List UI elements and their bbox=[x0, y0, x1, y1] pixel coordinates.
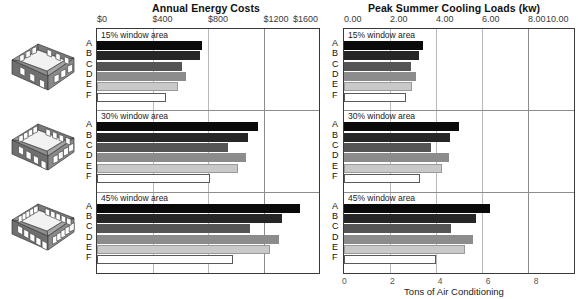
bar-row bbox=[97, 143, 319, 152]
bar-group: 45% window area bbox=[97, 192, 319, 273]
bar-B bbox=[344, 51, 419, 60]
bar-row bbox=[344, 72, 574, 81]
bar-D bbox=[97, 153, 246, 162]
building-30-percent-windows-icon bbox=[4, 110, 82, 184]
bar-row bbox=[97, 174, 319, 183]
group-label: 15% window area bbox=[101, 30, 168, 40]
bar-row bbox=[344, 62, 574, 71]
x-tick-label-bottom: 6 bbox=[486, 276, 491, 286]
bar-row bbox=[344, 235, 574, 244]
bar-C bbox=[344, 224, 451, 233]
left-chart-title: Annual Energy Costs bbox=[84, 2, 328, 14]
group-separator bbox=[97, 192, 319, 193]
group-label: 45% window area bbox=[101, 193, 168, 203]
bar-row bbox=[344, 133, 574, 142]
building-thumbnails-column bbox=[0, 0, 84, 299]
x-tick-label: 2.00 bbox=[390, 14, 408, 24]
bar-C bbox=[97, 224, 250, 233]
bar-C bbox=[344, 62, 411, 71]
x-tick-label: 8.00 bbox=[528, 14, 546, 24]
right-chart-plot-area: 15% window area30% window area45% window… bbox=[343, 28, 575, 274]
bar-E bbox=[97, 82, 178, 91]
bar-row bbox=[344, 153, 574, 162]
bar-D bbox=[97, 235, 279, 244]
bar-D bbox=[344, 235, 473, 244]
bar-group: 45% window area bbox=[344, 192, 574, 273]
x-tick-label: $1200 bbox=[264, 14, 289, 24]
building-45-percent-windows-icon bbox=[4, 190, 82, 264]
bar-row bbox=[344, 82, 574, 91]
bar-F bbox=[344, 174, 420, 183]
bar-row bbox=[344, 174, 574, 183]
bar-row bbox=[97, 122, 319, 131]
bar-B bbox=[97, 214, 282, 223]
bar-B bbox=[97, 51, 200, 60]
bar-B bbox=[344, 133, 450, 142]
bar-E bbox=[97, 245, 270, 254]
bar-row bbox=[344, 51, 574, 60]
bar-row bbox=[97, 93, 319, 102]
bar-C bbox=[97, 143, 228, 152]
bar-A bbox=[97, 204, 300, 213]
bar-row bbox=[344, 255, 574, 264]
x-tick-label-bottom: 2 bbox=[390, 276, 395, 286]
bar-row bbox=[97, 82, 319, 91]
group-label: 30% window area bbox=[348, 111, 415, 121]
right-chart-x-axis-top: 0.002.004.006.008.0010.00 bbox=[330, 14, 578, 26]
bar-row bbox=[97, 214, 319, 223]
bar-E bbox=[344, 164, 442, 173]
x-tick-label: 0.00 bbox=[344, 14, 362, 24]
bar-row bbox=[344, 164, 574, 173]
group-label: 15% window area bbox=[348, 30, 415, 40]
x-tick-label: $1600 bbox=[293, 14, 318, 24]
x-tick-label-bottom: 8 bbox=[534, 276, 539, 286]
figure-root: Annual Energy Costs $0$400$800$1200$1600… bbox=[0, 0, 578, 299]
bar-group: 15% window area bbox=[344, 29, 574, 110]
bar-row bbox=[97, 235, 319, 244]
group-separator bbox=[344, 192, 574, 193]
bar-group: 30% window area bbox=[344, 110, 574, 191]
x-tick-label: $0 bbox=[97, 14, 107, 24]
bar-row bbox=[97, 62, 319, 71]
x-tick-label: $400 bbox=[153, 14, 173, 24]
bar-B bbox=[344, 214, 476, 223]
building-15-percent-windows-icon bbox=[4, 30, 82, 104]
group-label: 30% window area bbox=[101, 111, 168, 121]
bar-row bbox=[344, 93, 574, 102]
bar-A bbox=[344, 204, 490, 213]
x-tick-label: 10.00 bbox=[546, 14, 569, 24]
bar-D bbox=[97, 72, 186, 81]
bar-row bbox=[344, 245, 574, 254]
right-chart-x-axis-caption: Tons of Air Conditioning bbox=[330, 286, 578, 297]
bar-F bbox=[97, 174, 210, 183]
bar-group: 30% window area bbox=[97, 110, 319, 191]
bar-F bbox=[344, 255, 436, 264]
bar-F bbox=[97, 255, 233, 264]
bar-row bbox=[97, 41, 319, 50]
bar-A bbox=[344, 122, 459, 131]
chart-panel-annual-energy-costs: Annual Energy Costs $0$400$800$1200$1600… bbox=[84, 0, 328, 299]
bar-row bbox=[97, 164, 319, 173]
bar-E bbox=[344, 82, 412, 91]
bar-E bbox=[97, 164, 238, 173]
bar-row bbox=[97, 204, 319, 213]
bar-F bbox=[344, 93, 406, 102]
bar-C bbox=[344, 143, 431, 152]
bar-row bbox=[344, 122, 574, 131]
bar-row bbox=[97, 224, 319, 233]
bar-row bbox=[344, 224, 574, 233]
bar-row bbox=[97, 51, 319, 60]
group-separator bbox=[97, 110, 319, 111]
bar-group: 15% window area bbox=[97, 29, 319, 110]
bar-row bbox=[97, 72, 319, 81]
bar-row bbox=[97, 153, 319, 162]
bar-A bbox=[97, 41, 202, 50]
bar-A bbox=[344, 41, 423, 50]
bar-row bbox=[97, 133, 319, 142]
bar-B bbox=[97, 133, 248, 142]
bar-row bbox=[344, 41, 574, 50]
x-tick-label-bottom: 4 bbox=[438, 276, 443, 286]
bar-D bbox=[344, 72, 416, 81]
bar-D bbox=[344, 153, 449, 162]
x-tick-label: 6.00 bbox=[482, 14, 500, 24]
